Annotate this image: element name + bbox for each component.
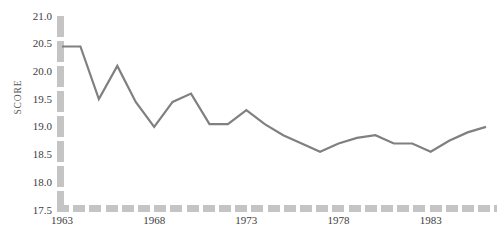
x-tick-label: 1983 — [420, 214, 442, 226]
x-axis-tick-labels: 19631968197319781983 — [0, 214, 502, 232]
y-tick-label: 20.0 — [12, 66, 52, 77]
y-tick-label: 18.0 — [12, 177, 52, 188]
y-tick-label: 18.5 — [12, 149, 52, 160]
y-tick-label: 21.0 — [12, 11, 52, 22]
x-tick-label: 1963 — [51, 214, 73, 226]
y-axis-tick-labels: 17.518.018.519.019.520.020.521.0 — [12, 0, 52, 238]
x-tick-label: 1973 — [235, 214, 257, 226]
plot-area — [57, 16, 495, 210]
y-tick-label: 19.0 — [12, 121, 52, 132]
score-series-line — [62, 46, 486, 151]
x-tick-label: 1978 — [328, 214, 350, 226]
y-tick-label: 20.5 — [12, 38, 52, 49]
chart-container: SCORE 17.518.018.519.019.520.020.521.0 1… — [0, 0, 502, 238]
line-chart-svg — [57, 16, 495, 210]
y-tick-label: 19.5 — [12, 94, 52, 105]
x-tick-label: 1968 — [143, 214, 165, 226]
